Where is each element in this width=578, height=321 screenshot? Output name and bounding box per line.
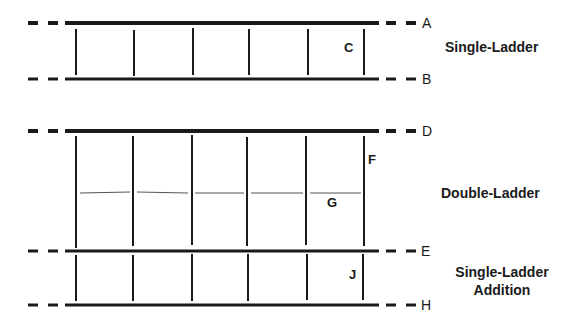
label-f: F bbox=[368, 152, 376, 167]
section-title-single-ladder: Single-Ladder bbox=[445, 39, 539, 55]
label-j: J bbox=[349, 267, 356, 282]
label-g: G bbox=[327, 195, 337, 210]
label-d: D bbox=[422, 123, 432, 139]
label-e: E bbox=[421, 243, 430, 259]
label-a: A bbox=[422, 15, 432, 31]
section-title-addition-line1: Single-Ladder bbox=[455, 264, 549, 280]
ladder-diagram: A B C Single-Ladder D bbox=[0, 0, 578, 321]
label-b: B bbox=[422, 71, 431, 87]
label-h: H bbox=[421, 297, 431, 313]
label-c: C bbox=[344, 40, 354, 55]
section-title-double-ladder: Double-Ladder bbox=[441, 185, 540, 201]
section-title-addition-line2: Addition bbox=[474, 282, 531, 298]
